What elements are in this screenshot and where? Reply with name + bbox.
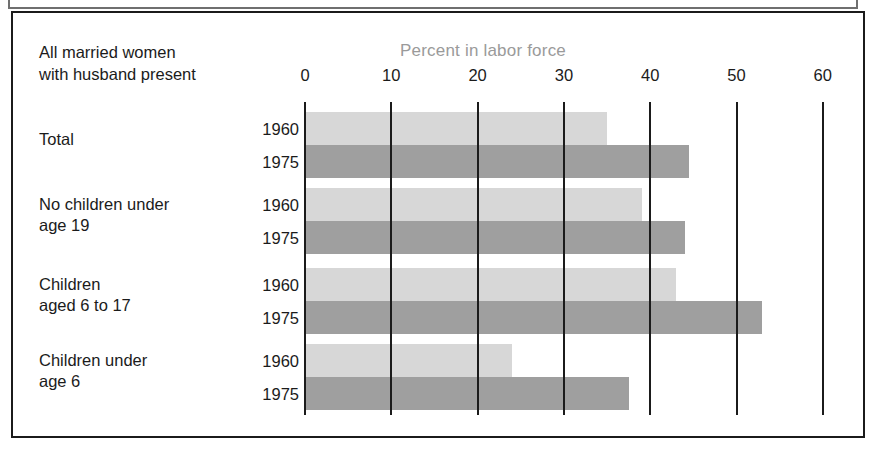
gridline bbox=[736, 102, 738, 415]
x-axis-gridlines bbox=[13, 13, 863, 436]
adjacent-frame-sliver bbox=[8, 0, 858, 9]
gridline bbox=[390, 102, 392, 415]
gridline bbox=[477, 102, 479, 415]
chart-plot-area: All married women with husband present P… bbox=[13, 13, 863, 436]
figure-frame: All married women with husband present P… bbox=[11, 11, 865, 438]
gridline bbox=[649, 102, 651, 415]
gridline bbox=[822, 102, 824, 415]
y-axis-line bbox=[304, 102, 306, 415]
gridline bbox=[563, 102, 565, 415]
